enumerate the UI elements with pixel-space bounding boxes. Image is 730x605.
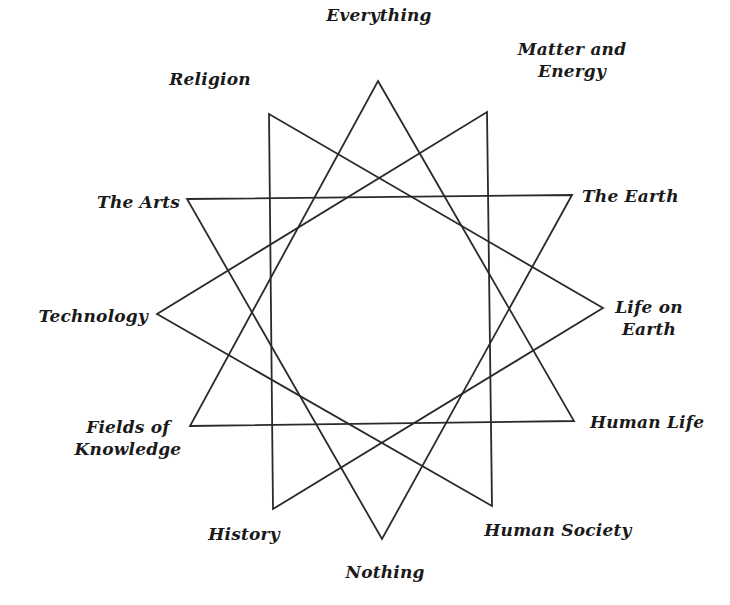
label-everything-text: Everything [326,4,431,26]
label-the-earth: The Earth [582,185,679,207]
label-matter-line1: Matter and [518,38,627,60]
label-life-line2: Earth [615,318,683,340]
label-fields-line1: Fields of [75,416,182,438]
label-human-society-text: Human Society [484,519,631,541]
label-technology-text: Technology [39,305,149,327]
label-religion: Religion [169,68,251,90]
label-human-life-text: Human Life [590,411,704,433]
label-technology: Technology [39,305,149,327]
label-history: History [208,523,280,545]
label-religion-text: Religion [169,68,251,90]
label-matter-and-energy: Matter and Energy [518,38,627,82]
label-human-life: Human Life [590,411,704,433]
triangle-earth-nothing-arts [187,195,572,539]
label-everything: Everything [326,4,431,26]
label-matter-line2: Energy [518,60,627,82]
label-fields-line2: Knowledge [75,438,182,460]
label-the-arts-text: The Arts [97,191,180,213]
label-life-line1: Life on [615,296,683,318]
triangle-everything-humanlife-fields [190,81,574,426]
label-history-text: History [208,523,280,545]
label-the-earth-text: The Earth [582,185,679,207]
triangle-lifeonearth-history-religion [269,114,603,509]
triangle-matter-society-technology [157,112,492,506]
label-fields-of-knowledge: Fields of Knowledge [75,416,182,460]
label-nothing: Nothing [345,561,424,583]
label-life-on-earth: Life on Earth [615,296,683,340]
label-nothing-text: Nothing [345,561,424,583]
label-human-society: Human Society [484,519,631,541]
label-the-arts: The Arts [97,191,180,213]
